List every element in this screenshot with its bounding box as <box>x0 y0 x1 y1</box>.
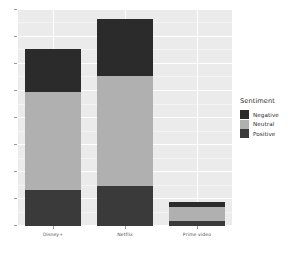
bar-segment-neutral[interactable] <box>25 92 81 190</box>
legend: Sentiment Negative Neutral Positive <box>240 97 296 139</box>
stacked-bar-chart: Disney+ Netflix Prime video Sentiment Ne… <box>0 0 298 253</box>
x-tick-label-netflix: Netflix <box>117 232 133 237</box>
legend-item-negative[interactable]: Negative <box>240 110 296 119</box>
bar-segment-negative[interactable] <box>97 19 153 76</box>
plot-panel <box>18 9 232 226</box>
legend-item-positive[interactable]: Positive <box>240 129 296 138</box>
y-axis-tick <box>14 63 17 64</box>
legend-label-negative: Negative <box>253 112 279 118</box>
legend-swatch-positive <box>240 129 249 138</box>
bar-segment-positive[interactable] <box>25 190 81 226</box>
legend-swatch-neutral <box>240 120 249 129</box>
y-axis-tick <box>14 144 17 145</box>
legend-item-neutral[interactable]: Neutral <box>240 120 296 129</box>
bar-segment-positive[interactable] <box>97 186 153 226</box>
y-axis-tick <box>14 90 17 91</box>
bar-netflix[interactable] <box>97 19 153 226</box>
bar-segment-negative[interactable] <box>25 49 81 92</box>
y-axis-tick <box>14 198 17 199</box>
bar-segment-neutral[interactable] <box>169 207 225 221</box>
x-axis-tick <box>53 226 54 229</box>
legend-label-neutral: Neutral <box>253 121 274 127</box>
legend-swatch-negative <box>240 110 249 119</box>
legend-title: Sentiment <box>240 97 296 105</box>
bar-segment-neutral[interactable] <box>97 76 153 186</box>
x-axis-tick <box>125 226 126 229</box>
legend-label-positive: Positive <box>253 131 275 137</box>
y-axis-tick <box>14 36 17 37</box>
bar-disney-plus[interactable] <box>25 49 81 226</box>
gridline-vertical <box>197 9 198 226</box>
y-axis-tick <box>14 117 17 118</box>
y-axis-tick <box>14 225 17 226</box>
bar-prime-video[interactable] <box>169 202 225 226</box>
y-axis-tick <box>14 9 17 10</box>
y-axis-tick <box>14 171 17 172</box>
x-tick-label-disney-plus: Disney+ <box>43 232 63 237</box>
x-axis-tick <box>197 226 198 229</box>
x-tick-label-prime-video: Prime video <box>183 232 211 237</box>
